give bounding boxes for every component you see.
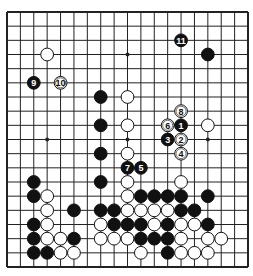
white-stone — [94, 218, 107, 231]
black-stone — [68, 232, 81, 245]
white-stone — [161, 204, 174, 217]
black-stone-disc — [161, 190, 174, 203]
move-number-label: 11 — [176, 36, 186, 46]
white-stone — [41, 218, 54, 231]
black-stone — [27, 190, 40, 203]
black-stone-disc — [201, 48, 214, 61]
white-stone — [175, 218, 188, 231]
black-stone — [27, 232, 40, 245]
black-stone — [134, 218, 147, 231]
black-stone-disc — [148, 232, 161, 245]
white-stone-disc — [188, 246, 201, 259]
move-number-label: 1 — [179, 121, 184, 131]
black-stone — [175, 190, 188, 203]
black-stone — [175, 204, 188, 217]
white-stone-disc — [175, 246, 188, 259]
white-stone-8: 8 — [175, 105, 188, 118]
white-stone — [121, 91, 134, 104]
move-number-label: 4 — [179, 149, 184, 159]
white-stone — [54, 232, 67, 245]
white-stone — [201, 119, 214, 132]
white-stone-disc — [121, 232, 134, 245]
black-stone-disc — [161, 246, 174, 259]
white-stone — [121, 232, 134, 245]
move-number-label: 2 — [179, 135, 184, 145]
white-stone-disc — [108, 232, 121, 245]
move-number-label: 3 — [165, 135, 170, 145]
black-stone-disc — [161, 218, 174, 231]
black-stone-disc — [27, 190, 40, 203]
white-stone — [41, 204, 54, 217]
black-stone-disc — [94, 119, 107, 132]
white-stone — [41, 232, 54, 245]
white-stone-disc — [41, 204, 54, 217]
white-stone-disc — [201, 232, 214, 245]
black-stone-disc — [27, 246, 40, 259]
white-stone-disc — [41, 232, 54, 245]
black-stone-disc — [175, 190, 188, 203]
black-stone — [134, 190, 147, 203]
star-point — [206, 138, 210, 142]
black-stone — [27, 176, 40, 189]
move-number-label: 9 — [31, 78, 36, 88]
black-stone-disc — [94, 91, 107, 104]
white-stone — [201, 232, 214, 245]
star-point — [126, 53, 130, 57]
black-stone — [188, 204, 201, 217]
black-stone — [108, 218, 121, 231]
black-stone-disc — [27, 176, 40, 189]
white-stone-disc — [41, 190, 54, 203]
black-stone-3: 3 — [161, 133, 174, 146]
black-stone-disc — [94, 204, 107, 217]
black-stone-11: 11 — [175, 34, 188, 47]
white-stone-disc — [121, 91, 134, 104]
white-stone — [175, 246, 188, 259]
white-stone — [175, 176, 188, 189]
black-stone-disc — [134, 232, 147, 245]
white-stone — [188, 246, 201, 259]
black-stone — [94, 147, 107, 160]
white-stone — [108, 232, 121, 245]
white-stone — [175, 232, 188, 245]
black-stone — [94, 204, 107, 217]
star-point — [45, 138, 49, 142]
white-stone-disc — [121, 147, 134, 160]
black-stone-disc — [201, 218, 214, 231]
white-stone-disc — [121, 119, 134, 132]
white-stone — [121, 204, 134, 217]
white-stone-disc — [41, 48, 54, 61]
black-stone-disc — [175, 204, 188, 217]
black-stone — [161, 232, 174, 245]
white-stone — [201, 246, 214, 259]
white-stone — [134, 246, 147, 259]
white-stone-2: 2 — [175, 133, 188, 146]
white-stone-disc — [188, 218, 201, 231]
black-stone-disc — [68, 232, 81, 245]
white-stone — [215, 232, 228, 245]
move-number-label: 8 — [179, 107, 184, 117]
black-stone — [41, 246, 54, 259]
go-board: 9101186132475 — [0, 0, 253, 276]
white-stone-disc — [201, 246, 214, 259]
white-stone — [41, 48, 54, 61]
black-stone — [201, 218, 214, 231]
white-stone-disc — [68, 246, 81, 259]
black-stone — [108, 204, 121, 217]
star-point — [126, 138, 130, 142]
black-stone — [148, 232, 161, 245]
black-stone-disc — [108, 204, 121, 217]
black-stone — [94, 119, 107, 132]
white-stone — [121, 147, 134, 160]
black-stone-7: 7 — [121, 161, 134, 174]
black-stone — [161, 190, 174, 203]
black-stone-9: 9 — [27, 76, 40, 89]
black-stone — [161, 218, 174, 231]
black-stone — [134, 232, 147, 245]
white-stone-disc — [121, 204, 134, 217]
white-stone — [54, 246, 67, 259]
white-stone — [41, 190, 54, 203]
black-stone-disc — [41, 246, 54, 259]
white-stone-disc — [148, 218, 161, 231]
move-number-label: 6 — [165, 121, 170, 131]
white-stone — [94, 232, 107, 245]
